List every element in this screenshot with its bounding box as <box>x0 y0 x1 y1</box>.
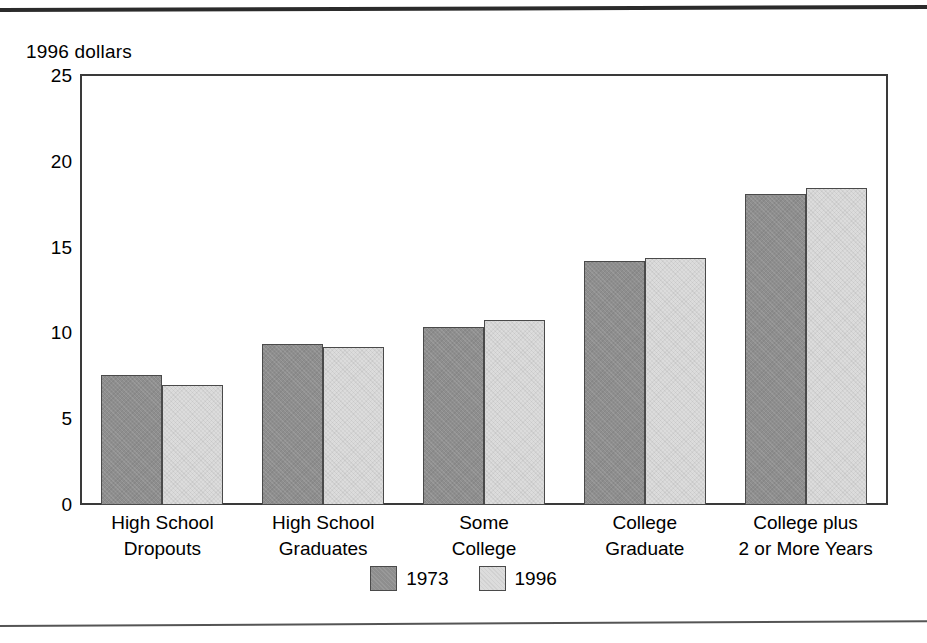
bar-1996-4[interactable] <box>806 188 867 505</box>
bar-1996-3[interactable] <box>645 258 706 505</box>
page-bottom-rule <box>0 620 927 627</box>
bar-group <box>725 76 886 505</box>
bars-layer <box>82 76 886 505</box>
page-top-rule <box>0 5 927 12</box>
x-category-label-line: College plus <box>697 510 914 536</box>
y-axis-tick-labels: 0510152025 <box>20 74 72 505</box>
bar-1973-2[interactable] <box>423 327 484 505</box>
chart-legend: 19731996 <box>0 566 927 591</box>
y-tick-label: 5 <box>20 408 72 430</box>
x-category-label: College plus2 or More Years <box>697 510 914 562</box>
bar-1973-0[interactable] <box>101 375 162 505</box>
bar-group <box>564 76 725 505</box>
bar-group <box>82 76 243 505</box>
light-gray-swatch <box>479 566 506 591</box>
bar-1973-4[interactable] <box>745 194 806 505</box>
bar-group <box>404 76 565 505</box>
y-tick-label: 20 <box>20 151 72 173</box>
y-tick-label: 10 <box>20 322 72 344</box>
y-tick-label: 15 <box>20 237 72 259</box>
dark-gray-swatch <box>370 566 397 591</box>
y-axis-caption: 1996 dollars <box>26 41 132 63</box>
bar-group <box>243 76 404 505</box>
legend-label: 1996 <box>515 568 557 590</box>
legend-item-1973[interactable]: 1973 <box>370 566 448 591</box>
legend-item-1996[interactable]: 1996 <box>479 566 557 591</box>
bar-1973-3[interactable] <box>584 261 645 505</box>
legend-label: 1973 <box>406 568 448 590</box>
x-category-label-line: 2 or More Years <box>697 536 914 562</box>
y-tick-label: 25 <box>20 65 72 87</box>
x-axis-category-labels: High SchoolDropoutsHigh SchoolGraduatesS… <box>82 510 886 568</box>
bar-1996-1[interactable] <box>323 347 384 505</box>
bar-1996-2[interactable] <box>484 320 545 505</box>
bar-1973-1[interactable] <box>262 344 323 505</box>
bar-1996-0[interactable] <box>162 385 223 505</box>
